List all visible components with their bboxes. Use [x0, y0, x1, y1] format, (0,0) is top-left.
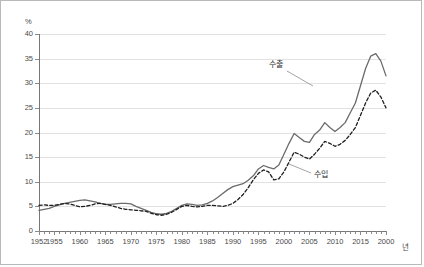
import-leader-line [289, 164, 311, 173]
export-leader-line [287, 71, 313, 86]
import-series-label: 수입 [314, 168, 328, 179]
export-series-label: 수출 [269, 58, 283, 69]
annotation-leader-lines [1, 1, 423, 266]
chart-figure: % 0510152025303540 195219551960196519701… [0, 0, 422, 265]
